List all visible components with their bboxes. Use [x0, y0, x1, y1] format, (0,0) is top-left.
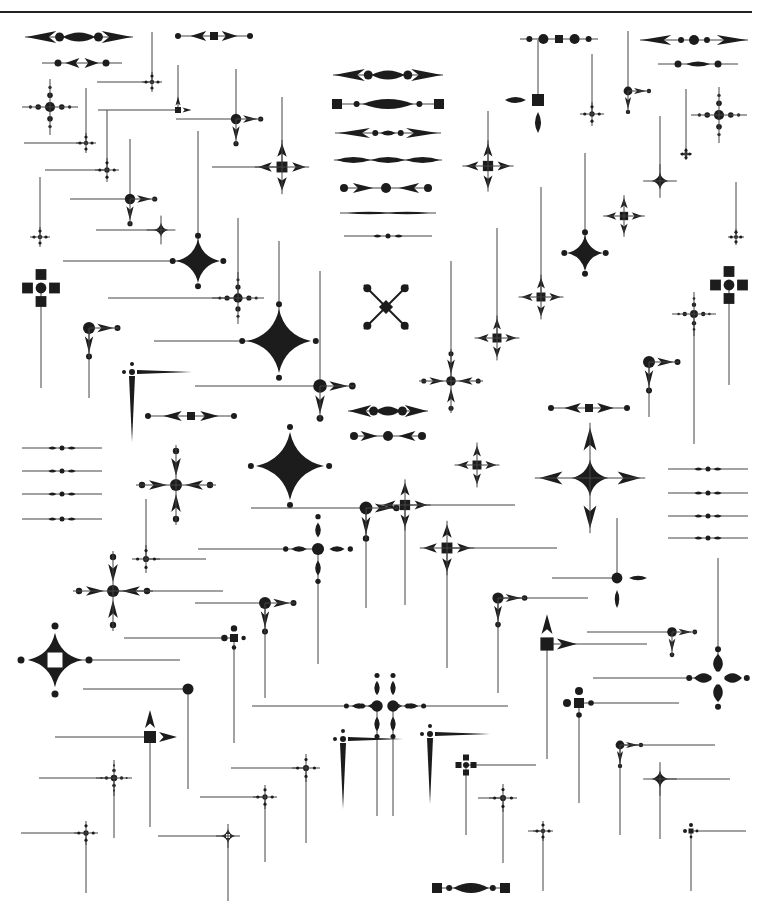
corner-ornament-circle-arrow: [624, 31, 652, 114]
corner-ornament-small-cross: [132, 499, 206, 573]
horizontal-rule-ornament: [344, 234, 432, 239]
corner-ornament-small-cross: [680, 89, 692, 160]
corner-ornament-cross-dots: [672, 292, 716, 444]
corner-ornament-hollow-star: [18, 623, 181, 698]
corner-ornament-square-arrow: [98, 65, 192, 113]
horizontal-rule-ornament: [25, 31, 133, 43]
corner-ornament-square-cross: [603, 195, 645, 237]
horizontal-rule-ornament: [640, 35, 748, 45]
corner-ornament-star4-small: [96, 216, 175, 245]
horizontal-rule-ornament: [22, 469, 102, 474]
horizontal-rule-ornament: [22, 492, 102, 497]
corner-ornament-star4: [248, 424, 332, 508]
corner-ornament-cross-dots: [691, 87, 747, 143]
corner-ornament-small-cross: [728, 182, 744, 245]
corner-ornament-four-squares: [456, 755, 537, 836]
corner-ornament-square-cross: [212, 97, 309, 194]
ornament-page: [0, 0, 770, 923]
corner-ornament-square-cross: [519, 187, 564, 319]
corner-ornament-circle-arrow: [587, 627, 697, 657]
corner-ornament-star4-small: [643, 116, 677, 198]
horizontal-rule-ornament: [145, 411, 237, 421]
corner-ornament-square-dots: [124, 625, 246, 743]
corner-ornament-star4: [561, 153, 608, 277]
horizontal-rule-ornament: [335, 128, 441, 138]
corner-ornament-circle-cross: [419, 261, 483, 413]
horizontal-rule-ornament: [22, 446, 102, 451]
corner-ornament-square-arrow: [55, 710, 177, 827]
corner-ornament-circle-arrow: [83, 322, 121, 398]
corner-ornament-circle-arrow: [492, 592, 588, 693]
corner-ornament-small-cross: [200, 785, 277, 862]
horizontal-rule-ornament: [348, 405, 428, 417]
horizontal-rule-ornament: [350, 431, 426, 441]
corner-ornament-square-cross: [475, 228, 520, 360]
corner-ornament-small-cross: [231, 754, 320, 843]
corner-ornament-star4: [63, 131, 226, 289]
corner-ornament-square-cross: [455, 443, 500, 488]
corner-ornament-small-cross: [21, 821, 98, 893]
corner-ornament-dot-only: [83, 684, 194, 790]
corner-ornament-square-cross: [462, 111, 513, 192]
horizontal-rule-ornament: [432, 883, 510, 893]
corner-ornament-ornate-cross: [198, 514, 353, 664]
horizontal-rule-ornament: [668, 514, 748, 519]
horizontal-rule-ornament: [42, 58, 122, 68]
horizontal-rule-ornament: [175, 31, 253, 41]
corner-ornament-cross-dots: [108, 218, 264, 324]
corner-ornament-ornate-cross: [360, 673, 508, 816]
corner-ornament-saltire: [363, 284, 408, 329]
corner-ornament-circle-diamond: [552, 518, 647, 608]
horizontal-rule-ornament: [340, 212, 436, 215]
corner-ornament-circle-arrow: [616, 741, 715, 835]
horizontal-rule-ornament: [668, 491, 748, 496]
corner-ornament-cross-dots: [22, 79, 78, 135]
corner-ornament-small-cross: [478, 784, 517, 863]
horizontal-rule-ornament: [668, 467, 748, 472]
corner-ornament-square-diamond: [505, 40, 544, 133]
corner-ornament-star4-small: [643, 762, 730, 839]
corner-ornament-circle-arrow: [176, 69, 263, 146]
corner-ornament-small-cross: [24, 88, 96, 153]
horizontal-rule-ornament: [333, 69, 443, 81]
horizontal-rule-ornament: [658, 61, 738, 68]
corner-ornament-small-cross: [528, 821, 553, 891]
corner-ornament-square-cross: [420, 521, 557, 668]
corner-ornament-hollow-small: [158, 824, 240, 901]
corner-ornament-four-squares: [22, 269, 60, 388]
corner-ornament-circle-arrow: [195, 597, 297, 698]
corner-ornament-small-cross: [45, 110, 119, 182]
horizontal-rule-ornament: [668, 536, 748, 541]
corner-ornament-small-cross: [30, 177, 50, 247]
corner-ornament-four-squares: [710, 266, 748, 385]
horizontal-rule-ornament: [332, 99, 444, 109]
horizontal-rule-ornament: [340, 183, 432, 193]
corner-ornament-square-arrow: [540, 614, 647, 759]
ornament-artwork: [0, 0, 770, 923]
horizontal-rule-ornament: [22, 517, 102, 522]
horizontal-rule-ornament: [520, 34, 598, 44]
corner-ornament-circle-cross: [136, 445, 216, 525]
corner-ornament-circle-cross: [73, 551, 223, 631]
horizontal-rule-ornament: [548, 403, 630, 413]
corner-ornament-sword: [122, 362, 192, 442]
corner-ornament-square-dots: [683, 823, 746, 891]
corner-ornament-sword: [420, 724, 490, 804]
corner-ornament-circle-arrow: [251, 502, 400, 608]
corner-ornament-small-cross: [580, 54, 604, 126]
corner-ornament-circle-arrow: [70, 139, 157, 226]
corner-ornament-ornate-cross: [252, 673, 410, 816]
horizontal-rule-ornament: [334, 157, 442, 163]
corner-ornament-star4-big: [535, 423, 645, 533]
corner-ornament-circle-arrow: [643, 356, 681, 417]
